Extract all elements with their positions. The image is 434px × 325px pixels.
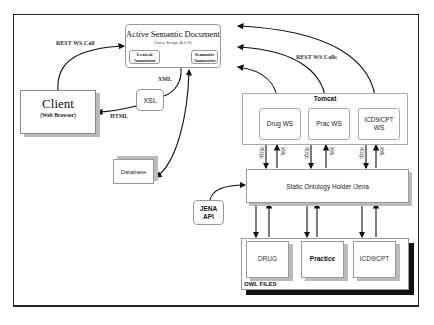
owl-file-practice: Practice: [301, 241, 344, 278]
xml-label-prac: XML: [329, 147, 334, 156]
semantic-annotator-node: Semantic Annotator: [191, 50, 218, 64]
database-node: Database: [113, 159, 154, 184]
rdql-label-drug: RDQL: [259, 147, 264, 160]
asd-title: Active Semantic Document: [126, 29, 220, 39]
client-title: Client: [21, 96, 95, 112]
client-subtitle: (Web Browser): [21, 112, 95, 118]
figure-caption-truncated: [150, 318, 275, 325]
jena-api-node: JENA API: [193, 200, 224, 225]
lexical-annotator-node: Lexical Annotator: [129, 50, 160, 64]
xml-label-drug: XML: [280, 147, 285, 156]
asd-subtitle: (Java Script & C#): [126, 40, 220, 45]
icd9-cpt-ws-node: ICD9/CPT WS: [358, 108, 400, 140]
xsl-node: XSL: [136, 89, 164, 111]
owl-file-icd9-cpt: ICD9/CPT: [353, 241, 396, 278]
client-node: Client (Web Browser): [20, 90, 96, 134]
html-label: HTML: [110, 113, 128, 119]
owl-file-drug: DRUG: [246, 241, 289, 278]
xml-label-icd9: XML: [379, 147, 384, 156]
rest-ws-calls-label: REST WS Calls: [296, 54, 337, 60]
rdql-label-prac: RDQL: [304, 147, 309, 160]
xml-label: XML: [158, 76, 172, 82]
rdql-label-icd9: RDQL: [359, 147, 364, 160]
static-ontology-holder-node: Static Ontology Holder /Jena: [246, 169, 409, 203]
prac-ws-node: Prac WS: [308, 108, 350, 140]
owl-files-container: DRUG Practice ICD9/CPT OWL FILES: [241, 238, 409, 290]
tomcat-title: Tomcat: [243, 95, 407, 102]
owl-files-label: OWL FILES: [244, 281, 277, 287]
tomcat-container: Tomcat Drug WS Prac WS ICD9/CPT WS: [242, 93, 408, 145]
drug-ws-node: Drug WS: [259, 108, 301, 140]
rest-ws-call-label: REST WS Call: [56, 40, 94, 46]
